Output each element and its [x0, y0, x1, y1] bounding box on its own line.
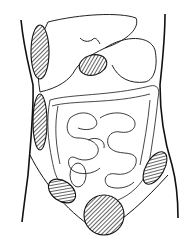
hatched-region-right-lower-quadrant: [44, 174, 80, 208]
anatomy-illustration: [0, 0, 194, 248]
hatched-region-right-upper-flank: [31, 25, 49, 79]
hatched-region-gallbladder: [77, 52, 109, 79]
hatched-regions: [31, 25, 172, 235]
abdomen-diagram: [0, 0, 194, 248]
small-intestine: [67, 113, 136, 188]
liver: [38, 15, 137, 92]
hatched-region-left-lower-quadrant: [138, 148, 172, 188]
hatched-region-right-mid-flank: [33, 94, 47, 150]
hatched-region-suprapubic: [84, 195, 124, 235]
